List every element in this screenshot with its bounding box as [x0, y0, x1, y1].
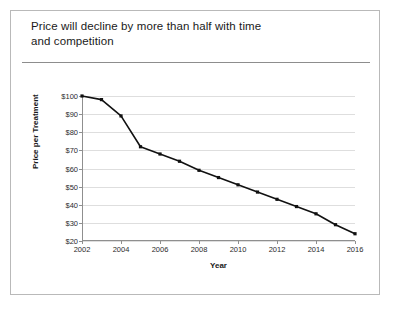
- y-tick-label: $90: [65, 110, 78, 119]
- data-point: [217, 176, 220, 179]
- gridline: [82, 241, 355, 242]
- x-tick-mark: [82, 241, 83, 244]
- data-point: [100, 98, 103, 101]
- x-tick-mark: [277, 241, 278, 244]
- data-point: [119, 114, 122, 117]
- plot-area: $20$30$40$50$60$70$80$90$100 20022004200…: [82, 96, 355, 241]
- data-point: [275, 198, 278, 201]
- title-divider: [22, 62, 370, 63]
- data-point: [256, 190, 259, 193]
- y-tick-label: $70: [65, 146, 78, 155]
- data-point: [295, 205, 298, 208]
- y-axis-title: Price per Treatment: [31, 94, 40, 169]
- x-tick-mark: [355, 241, 356, 244]
- y-tick-label: $50: [65, 182, 78, 191]
- data-point: [353, 232, 356, 235]
- series-line: [82, 96, 355, 234]
- data-point: [334, 223, 337, 226]
- data-point: [80, 94, 83, 97]
- data-point: [197, 169, 200, 172]
- data-point: [314, 212, 317, 215]
- line-chart: Price per Treatment Year $20$30$40$50$60…: [25, 81, 367, 286]
- x-axis-title: Year: [82, 261, 355, 270]
- x-tick-label: 2002: [74, 245, 91, 254]
- y-tick-label: $80: [65, 128, 78, 137]
- y-tick-label: $30: [65, 218, 78, 227]
- price-series: [82, 96, 355, 241]
- x-tick-mark: [160, 241, 161, 244]
- x-tick-label: 2016: [347, 245, 364, 254]
- x-tick-label: 2004: [113, 245, 130, 254]
- x-tick-mark: [238, 241, 239, 244]
- data-point: [178, 160, 181, 163]
- y-tick-label: $40: [65, 200, 78, 209]
- x-tick-mark: [316, 241, 317, 244]
- data-point: [158, 152, 161, 155]
- data-point: [139, 145, 142, 148]
- slide-frame: Price will decline by more than half wit…: [10, 10, 380, 295]
- x-tick-mark: [121, 241, 122, 244]
- x-tick-label: 2008: [191, 245, 208, 254]
- x-tick-label: 2014: [308, 245, 325, 254]
- y-tick-label: $60: [65, 164, 78, 173]
- slide-title-line-1: Price will decline by more than half wit…: [31, 19, 361, 34]
- x-tick-mark: [199, 241, 200, 244]
- series-markers: [80, 94, 356, 235]
- x-tick-label: 2006: [152, 245, 169, 254]
- x-tick-label: 2012: [269, 245, 286, 254]
- slide-title: Price will decline by more than half wit…: [31, 19, 361, 49]
- data-point: [236, 183, 239, 186]
- y-tick-label: $100: [61, 92, 78, 101]
- slide-title-line-2: and competition: [31, 34, 361, 49]
- x-tick-label: 2010: [230, 245, 247, 254]
